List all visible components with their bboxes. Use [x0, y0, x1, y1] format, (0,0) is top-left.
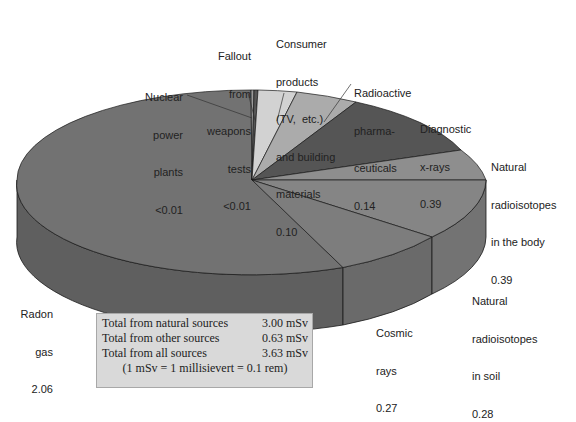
label-line: 0.14 [354, 200, 411, 213]
label-line: power [131, 129, 183, 142]
totals-row-all: Total from all sources 3.63 mSv [102, 346, 308, 361]
unit-note: (1 mSv = 1 millisievert = 0.1 rem) [102, 361, 308, 376]
label-line: materials [276, 188, 335, 201]
label-line: from [195, 88, 251, 101]
label-line: Natural [491, 161, 556, 174]
label-cosmic-rays: Cosmic rays 0.27 [376, 302, 413, 422]
label-line: Cosmic [376, 327, 413, 340]
totals-row-natural: Total from natural sources 3.00 mSv [102, 316, 308, 331]
label-line: 0.10 [276, 226, 335, 239]
totals-box: Total from natural sources 3.00 mSv Tota… [96, 313, 313, 388]
totals-value: 3.63 mSv [262, 346, 308, 361]
label-line: and building [276, 151, 335, 164]
label-line: radioisotopes [491, 199, 556, 212]
label-diagnostic-x-rays: Diagnostic x-rays 0.39 [420, 98, 471, 223]
label-line: in soil [472, 370, 537, 383]
label-consumer-products: Consumer products (TV, etc.) and buildin… [276, 13, 335, 251]
label-line: pharma- [354, 125, 411, 138]
label-line: <0.01 [131, 204, 183, 217]
totals-label: Total from natural sources [102, 316, 228, 331]
label-line: tests [195, 163, 251, 176]
label-line: (TV, etc.) [276, 113, 335, 126]
totals-label: Total from other sources [102, 331, 219, 346]
label-nuclear-power-plants: Nuclear power plants <0.01 [131, 66, 183, 229]
label-line: Radioactive [354, 87, 411, 100]
label-line: Fallout [195, 50, 251, 63]
label-line: products [276, 76, 335, 89]
label-line: plants [131, 166, 183, 179]
label-line: <0.01 [195, 200, 251, 213]
label-line: weapons [195, 125, 251, 138]
label-fallout: Fallout from weapons tests <0.01 [195, 25, 251, 225]
label-line: Natural [472, 295, 537, 308]
label-line: 2.06 [8, 383, 53, 396]
totals-value: 3.00 mSv [262, 316, 308, 331]
totals-value: 0.63 mSv [262, 331, 308, 346]
label-radon-gas: Radon gas 2.06 [8, 283, 53, 408]
label-line: in the body [491, 236, 556, 249]
label-line: rays [376, 365, 413, 378]
label-line: Diagnostic [420, 123, 471, 136]
label-line: gas [8, 346, 53, 359]
label-line: 0.39 [420, 198, 471, 211]
label-line: 0.28 [472, 408, 537, 421]
label-radioactive-pharmaceuticals: Radioactive pharma- ceuticals 0.14 [354, 62, 411, 225]
label-line: radioisotopes [472, 333, 537, 346]
totals-label: Total from all sources [102, 346, 207, 361]
label-line: Radon [8, 308, 53, 321]
label-line: ceuticals [354, 162, 411, 175]
label-line: 0.27 [376, 402, 413, 415]
label-line: x-rays [420, 161, 471, 174]
totals-row-other: Total from other sources 0.63 mSv [102, 331, 308, 346]
label-line: Nuclear [131, 91, 183, 104]
label-line: Consumer [276, 38, 335, 51]
label-natural-radioisotopes-soil: Natural radioisotopes in soil 0.28 [472, 270, 537, 422]
